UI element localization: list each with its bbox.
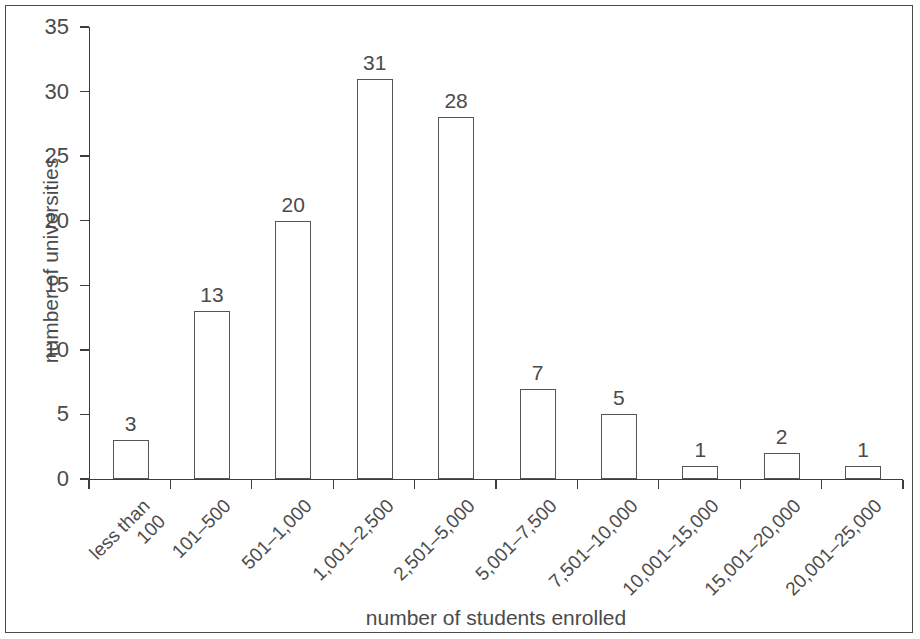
x-axis-tick	[902, 480, 903, 489]
y-axis-tick	[80, 91, 89, 92]
bar-value-label: 13	[182, 284, 242, 305]
y-axis-tick	[80, 414, 89, 415]
x-axis-category-label: 1,001–2,500	[308, 495, 398, 585]
x-axis-tick	[414, 480, 415, 489]
x-axis-title: number of students enrolled	[89, 607, 903, 628]
bar	[438, 117, 474, 479]
y-axis-tick-label: 30	[29, 81, 69, 103]
x-axis-tick	[251, 480, 252, 489]
bar-chart-plot-area: 05101520253035 31320312875121 less than …	[0, 0, 920, 639]
x-axis-category-label: less than 100	[85, 495, 170, 580]
y-axis-tick	[80, 26, 89, 27]
x-axis-tick	[88, 480, 89, 489]
bar	[682, 466, 718, 479]
y-axis-tick-label: 0	[29, 468, 69, 490]
bar	[357, 79, 393, 479]
x-axis-tick	[821, 480, 822, 489]
bar	[113, 440, 149, 479]
x-axis-tick	[658, 480, 659, 489]
bar-value-label: 2	[752, 426, 812, 447]
bar	[601, 414, 637, 479]
x-axis-tick	[333, 480, 334, 489]
bar	[764, 453, 800, 479]
bar-value-label: 1	[833, 439, 893, 460]
bar-value-label: 7	[508, 362, 568, 383]
bar-value-label: 28	[426, 90, 486, 111]
bar	[194, 311, 230, 479]
y-axis-title: number of universities	[40, 111, 61, 411]
x-axis-category-label: 501–1,000	[238, 495, 317, 574]
y-axis-tick-label: 35	[29, 16, 69, 38]
bar-value-label: 1	[670, 439, 730, 460]
x-axis-category-label: 101–500	[168, 495, 236, 563]
x-axis-tick	[740, 480, 741, 489]
x-axis-category-label: 5,001–7,500	[471, 495, 561, 585]
bar	[845, 466, 881, 479]
bar-value-label: 5	[589, 387, 649, 408]
bar	[275, 221, 311, 479]
x-axis-tick	[577, 480, 578, 489]
x-axis-tick	[495, 480, 496, 489]
figure-canvas: 05101520253035 31320312875121 less than …	[0, 0, 920, 639]
bar	[520, 389, 556, 479]
y-axis-tick	[80, 285, 89, 286]
y-axis-tick	[80, 220, 89, 221]
y-axis-tick	[80, 155, 89, 156]
bar-value-label: 31	[345, 52, 405, 73]
bar-value-label: 3	[101, 413, 161, 434]
y-axis-tick	[80, 349, 89, 350]
x-axis-tick	[170, 480, 171, 489]
y-axis-line	[89, 27, 90, 480]
x-axis-category-label: 2,501–5,000	[389, 495, 479, 585]
bar-value-label: 20	[263, 194, 323, 215]
